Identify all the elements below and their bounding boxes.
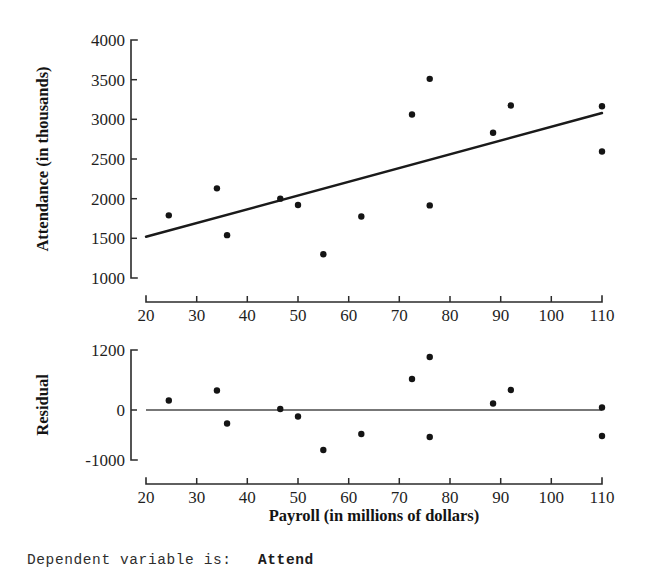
- residual-datapoint: [599, 433, 605, 439]
- residual-x-ticklabel: 70: [391, 488, 408, 507]
- attendance-datapoint: [320, 251, 326, 257]
- plots-svg: 4000 3500 3000 2500 2000 1500 1000 Atten…: [0, 0, 647, 520]
- attendance-y-ticklabel: 1000: [91, 269, 125, 288]
- residual-x-ticklabel: 20: [138, 488, 155, 507]
- residual-datapoint: [490, 400, 496, 406]
- attendance-datapoint: [427, 76, 433, 82]
- residual-y-ticklabel: 0: [117, 401, 126, 420]
- attendance-datapoint: [214, 185, 220, 191]
- regression-figure: 4000 3500 3000 2500 2000 1500 1000 Atten…: [0, 0, 647, 584]
- attendance-y-ticklabel: 3000: [91, 110, 125, 129]
- attendance-datapoint: [224, 232, 230, 238]
- residual-y-axis: [131, 350, 137, 460]
- attendance-x-ticklabel: 60: [340, 306, 357, 325]
- dependent-variable-value: Attend: [258, 552, 314, 568]
- attendance-x-ticklabel: 110: [590, 306, 615, 325]
- residual-datapoint: [427, 354, 433, 360]
- residual-datapoint: [508, 387, 514, 393]
- attendance-x-axis: [146, 296, 602, 302]
- attendance-x-ticklabel: 20: [138, 306, 155, 325]
- residual-y-ticklabels: 1200 0 -1000: [85, 341, 125, 470]
- residual-datapoint: [214, 387, 220, 393]
- attendance-datapoint: [599, 148, 605, 154]
- attendance-y-ticklabels: 4000 3500 3000 2500 2000 1500 1000: [91, 31, 125, 288]
- regression-trendline: [146, 113, 602, 237]
- attendance-y-ticklabel: 1500: [91, 229, 125, 248]
- residual-datapoint: [599, 404, 605, 410]
- attendance-datapoint: [490, 130, 496, 136]
- attendance-x-ticklabel: 70: [391, 306, 408, 325]
- attendance-datapoint: [358, 213, 364, 219]
- residual-x-ticklabel: 50: [290, 488, 307, 507]
- residual-datapoint: [320, 447, 326, 453]
- residual-datapoint: [409, 376, 415, 382]
- residual-y-axis-title: Residual: [33, 374, 52, 436]
- attendance-x-ticklabel: 80: [442, 306, 459, 325]
- residual-datapoints: [166, 354, 606, 453]
- attendance-datapoint: [599, 103, 605, 109]
- residual-x-ticklabel: 60: [340, 488, 357, 507]
- residual-datapoint: [166, 397, 172, 403]
- attendance-x-ticks: [197, 296, 552, 302]
- residual-x-axis: [146, 478, 602, 484]
- attendance-y-ticklabel: 4000: [91, 31, 125, 50]
- attendance-y-ticks: [131, 80, 137, 239]
- residual-x-ticklabel: 90: [492, 488, 509, 507]
- residual-x-ticklabel: 80: [442, 488, 459, 507]
- residual-datapoint: [295, 413, 301, 419]
- attendance-x-ticklabel: 100: [539, 306, 565, 325]
- residual-datapoint: [427, 434, 433, 440]
- attendance-datapoint: [508, 102, 514, 108]
- residual-datapoint: [358, 431, 364, 437]
- attendance-y-ticklabel: 2500: [91, 150, 125, 169]
- residual-plot: 1200 0 -1000 Residual 20 30 40: [33, 341, 614, 525]
- attendance-datapoint: [409, 111, 415, 117]
- residual-x-ticklabels: 20 30 40 50 60 70 80 90 100 110: [138, 488, 615, 507]
- residual-datapoint: [224, 420, 230, 426]
- residual-datapoint: [277, 406, 283, 412]
- attendance-y-ticklabel: 3500: [91, 71, 125, 90]
- dependent-variable-label: Dependent variable is:: [27, 552, 232, 568]
- attendance-x-ticklabels: 20 30 40 50 60 70 80 90 100 110: [138, 306, 615, 325]
- regression-output-block: Dependent variable is: Attend: [0, 520, 647, 584]
- attendance-x-ticklabel: 40: [239, 306, 256, 325]
- attendance-datapoint: [427, 202, 433, 208]
- residual-x-ticklabel: 100: [539, 488, 565, 507]
- attendance-datapoint: [277, 195, 283, 201]
- residual-x-ticklabel: 40: [239, 488, 256, 507]
- residual-y-ticklabel: -1000: [85, 451, 125, 470]
- attendance-x-ticklabel: 30: [188, 306, 205, 325]
- residual-x-ticks: [197, 478, 552, 484]
- attendance-x-ticklabel: 50: [290, 306, 307, 325]
- attendance-x-ticklabel: 90: [492, 306, 509, 325]
- residual-x-ticklabel: 110: [590, 488, 615, 507]
- attendance-datapoint: [295, 202, 301, 208]
- attendance-scatter-plot: 4000 3500 3000 2500 2000 1500 1000 Atten…: [33, 31, 614, 325]
- attendance-y-axis-title: Attendance (in thousands): [33, 66, 52, 251]
- attendance-y-ticklabel: 2000: [91, 190, 125, 209]
- residual-y-ticklabel: 1200: [91, 341, 125, 360]
- attendance-datapoints: [166, 76, 606, 258]
- attendance-datapoint: [166, 212, 172, 218]
- residual-x-ticklabel: 30: [188, 488, 205, 507]
